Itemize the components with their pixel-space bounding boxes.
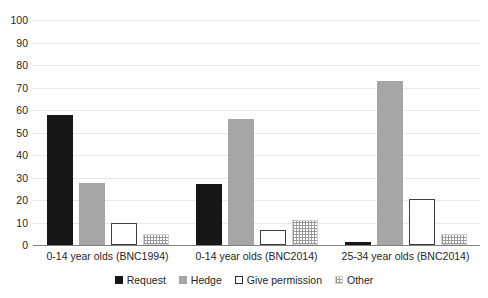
y-tick-label: 50 xyxy=(0,127,28,138)
legend-label: Hedge xyxy=(191,274,222,286)
legend-item-other: Other xyxy=(335,274,373,286)
bar-hedge xyxy=(79,183,105,245)
y-tick-label: 60 xyxy=(0,105,28,116)
bar-hedge xyxy=(377,81,403,245)
bar-hedge xyxy=(228,119,254,245)
y-tick-label: 30 xyxy=(0,172,28,183)
chart-legend: Request Hedge Give permission Other xyxy=(0,274,488,286)
legend-label: Other xyxy=(347,274,373,286)
hedge-swatch-icon xyxy=(179,276,187,284)
bar-group xyxy=(331,20,480,245)
bar-give-permission xyxy=(111,223,137,246)
bar-groups xyxy=(33,20,480,245)
request-swatch-icon xyxy=(115,276,123,284)
bar-give-permission xyxy=(409,199,435,245)
x-tick-label: 0-14 year olds (BNC2014) xyxy=(182,250,331,262)
y-tick-label: 40 xyxy=(0,150,28,161)
y-tick-label: 80 xyxy=(0,60,28,71)
bar-give-permission xyxy=(260,230,286,245)
x-axis-line xyxy=(33,245,480,246)
legend-item-request: Request xyxy=(115,274,166,286)
bar-request xyxy=(47,115,73,246)
legend-item-give-permission: Give permission xyxy=(235,274,322,286)
y-axis-labels: 100 90 80 70 60 50 40 30 20 10 0 xyxy=(0,20,28,245)
y-tick-label: 20 xyxy=(0,195,28,206)
other-swatch-icon xyxy=(335,276,343,284)
x-axis-labels: 0-14 year olds (BNC1994) 0-14 year olds … xyxy=(33,250,480,262)
legend-label: Give permission xyxy=(247,274,322,286)
y-tick-label: 70 xyxy=(0,82,28,93)
y-tick-label: 90 xyxy=(0,37,28,48)
plot-area xyxy=(33,20,480,245)
bar-other xyxy=(292,220,318,245)
bar-chart: 100 90 80 70 60 50 40 30 20 10 0 xyxy=(0,0,488,298)
y-tick-label: 0 xyxy=(0,240,28,251)
bar-group xyxy=(182,20,331,245)
bar-group xyxy=(33,20,182,245)
bar-other xyxy=(441,234,467,245)
bar-other xyxy=(143,234,169,245)
legend-label: Request xyxy=(127,274,166,286)
x-tick-label: 25-34 year olds (BNC2014) xyxy=(331,250,480,262)
y-tick-label: 100 xyxy=(0,15,28,26)
bar-request xyxy=(196,184,222,245)
give-permission-swatch-icon xyxy=(235,276,243,284)
legend-item-hedge: Hedge xyxy=(179,274,222,286)
bar-request xyxy=(345,242,371,245)
y-tick-label: 10 xyxy=(0,217,28,228)
x-tick-label: 0-14 year olds (BNC1994) xyxy=(33,250,182,262)
